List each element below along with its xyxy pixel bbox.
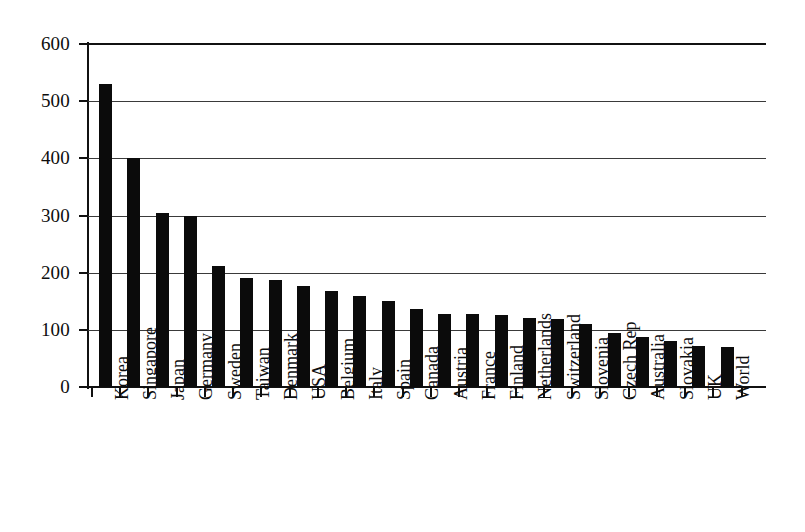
x-axis-category-label: Australia bbox=[649, 334, 667, 400]
x-axis-category-label: Netherlands bbox=[536, 313, 554, 400]
x-axis-category-label: Canada bbox=[423, 346, 441, 400]
y-axis-tick-label: 400 bbox=[12, 148, 70, 167]
y-axis-tick-label: 0 bbox=[12, 377, 70, 396]
bar bbox=[99, 84, 112, 387]
x-axis-category-label: Austria bbox=[452, 347, 470, 400]
bar bbox=[127, 158, 140, 387]
x-axis-category-label: Belgium bbox=[339, 338, 357, 400]
x-axis-category-label: UK bbox=[706, 374, 724, 400]
y-tick-600 bbox=[79, 43, 88, 45]
y-tick-0 bbox=[79, 386, 88, 388]
y-axis-tick-label: 500 bbox=[12, 91, 70, 110]
x-axis-category-label: Japan bbox=[169, 359, 187, 400]
x-axis-category-label: Spain bbox=[395, 359, 413, 400]
y-tick-200 bbox=[79, 272, 88, 274]
y-tick-400 bbox=[79, 157, 88, 159]
y-tick-100 bbox=[79, 329, 88, 331]
x-axis-category-label: Finland bbox=[508, 345, 526, 400]
x-axis-category-label: Singapore bbox=[141, 327, 159, 400]
x-axis-category-label: Denmark bbox=[282, 333, 300, 400]
x-axis-category-label: Korea bbox=[113, 356, 131, 400]
y-tick-300 bbox=[79, 215, 88, 217]
y-axis-tick-label: 600 bbox=[12, 34, 70, 53]
x-axis-category-label: Switzerland bbox=[565, 314, 583, 400]
x-axis-category-label: Slovakia bbox=[678, 337, 696, 400]
bar-chart: 0100200300400500600 KoreaSingaporeJapanG… bbox=[0, 0, 805, 532]
x-axis-category-label: World bbox=[734, 355, 752, 400]
y-tick-500 bbox=[79, 100, 88, 102]
y-axis-tick-label: 300 bbox=[12, 206, 70, 225]
y-axis-tick-label: 100 bbox=[12, 320, 70, 339]
x-axis-category-label: Italy bbox=[367, 367, 385, 400]
x-axis-category-label: Czech Rep bbox=[621, 322, 639, 400]
x-axis-category-label: Taiwan bbox=[254, 347, 272, 400]
x-axis-category-label: France bbox=[480, 351, 498, 400]
x-tick bbox=[91, 388, 93, 397]
x-axis-category-label: Slovenia bbox=[593, 337, 611, 400]
x-axis-category-label: USA bbox=[310, 364, 328, 400]
x-axis-category-label: Germany bbox=[197, 333, 215, 400]
x-axis-category-label: Sweden bbox=[226, 343, 244, 400]
y-axis-tick-label: 200 bbox=[12, 263, 70, 282]
